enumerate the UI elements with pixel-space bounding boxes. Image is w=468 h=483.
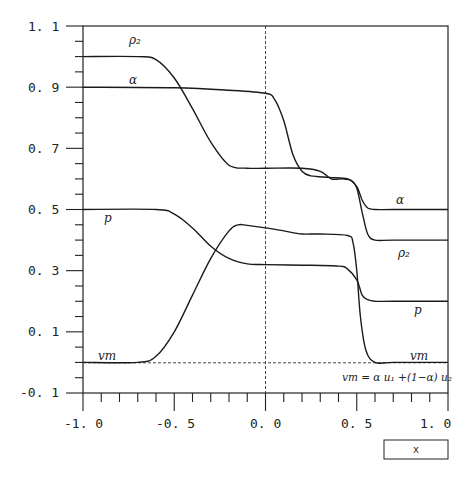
y-tick-label: 0. 9 [28,80,59,95]
vm-label-right: vm [410,349,428,363]
rho2-label-right: ρ₂ [397,246,410,260]
y-tick-label: 0. 1 [28,324,59,339]
x-tick-label: -0. 5 [156,416,195,431]
y-tick-label: 0. 3 [28,263,59,278]
y-axis [66,26,83,393]
vm-label-left: vm [98,349,116,363]
y-tick-label: -0. 1 [20,385,59,400]
y-tick-label: 1. 1 [28,19,59,34]
x-tick-label: -1. 0 [64,416,103,431]
x-tick-label: 0. 0 [250,416,281,431]
alpha-label-left: α [129,73,137,87]
alpha-label-right: α [396,193,404,207]
x-tick-label: 0. 5 [341,416,372,431]
line-chart: 1. 1 0. 9 0. 7 0. 5 0. 3 0. 1 -0. 1 -1. … [0,0,468,483]
x-axis [83,393,448,411]
formula-annotation: vm = α u₁ +(1−α) u₂ [342,371,452,383]
p-label-right: p [414,303,422,317]
y-tick-label: 0. 7 [28,141,59,156]
x-tick-label: 1. 0 [420,416,451,431]
y-tick-label: 0. 5 [28,202,59,217]
p-label-left: p [104,211,112,225]
x-axis-label: x [413,444,419,455]
rho2-label-left: ρ₂ [128,33,141,47]
